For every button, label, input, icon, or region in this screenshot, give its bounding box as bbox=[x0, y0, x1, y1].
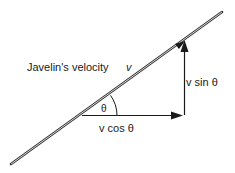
velocity-symbol: v bbox=[126, 62, 132, 73]
angle-theta-label: θ bbox=[101, 104, 107, 114]
angle-arc bbox=[111, 95, 118, 115]
vertical-component-label: v sin θ bbox=[186, 77, 218, 88]
horizontal-component-label: v cos θ bbox=[99, 123, 134, 134]
javelin bbox=[11, 12, 222, 164]
horizontal-component-arrow bbox=[82, 112, 183, 120]
javelin-velocity-label: Javelin's velocity bbox=[27, 62, 109, 73]
